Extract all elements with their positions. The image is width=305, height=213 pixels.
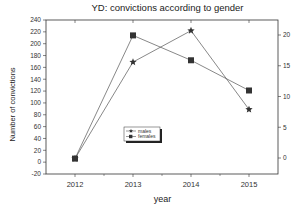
- y-tick-label: 80: [34, 111, 42, 118]
- y-tick-label: 100: [30, 99, 41, 106]
- star-marker: [187, 27, 194, 34]
- y-tick-label: 20: [34, 147, 42, 154]
- y-tick-label: 0: [37, 158, 41, 165]
- y-tick-label: 140: [30, 76, 41, 83]
- y2-tick-label: 10: [283, 93, 291, 100]
- x-tick-label: 2015: [241, 180, 258, 189]
- star-marker: [129, 58, 136, 65]
- x-tick-label: 2012: [67, 180, 84, 189]
- square-marker: [188, 57, 194, 63]
- x-tick-label: 2014: [183, 180, 200, 189]
- line-chart: -200204060801001201401601802002202400510…: [0, 0, 305, 213]
- y2-tick-label: 20: [283, 31, 291, 38]
- legend-square-icon: [129, 135, 132, 138]
- y-tick-label: 60: [34, 123, 42, 130]
- square-marker: [72, 156, 78, 162]
- y-tick-label: -20: [32, 170, 42, 177]
- x-tick-label: 2013: [125, 180, 142, 189]
- y-tick-label: 180: [30, 52, 41, 59]
- y2-tick-label: 15: [283, 62, 291, 69]
- plot-frame: [46, 20, 278, 174]
- star-marker: [245, 106, 252, 113]
- y2-tick-label: 0: [283, 154, 287, 161]
- y-tick-label: 220: [30, 28, 41, 35]
- y-tick-label: 40: [34, 135, 42, 142]
- y-tick-label: 120: [30, 87, 41, 94]
- legend-label-females: females: [138, 133, 156, 139]
- y2-tick-label: 5: [283, 124, 287, 131]
- square-marker: [130, 32, 136, 38]
- square-marker: [246, 87, 252, 93]
- y-tick-label: 160: [30, 64, 41, 71]
- y-tick-label: 200: [30, 40, 41, 47]
- y-tick-label: 240: [30, 16, 41, 23]
